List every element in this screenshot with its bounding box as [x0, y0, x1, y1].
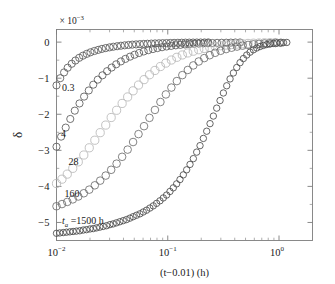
data-point	[224, 83, 230, 89]
figure-container: 10−210−11000−1−2−3−4−5× 10−3(t−0.01) (h)…	[0, 0, 335, 284]
data-point	[96, 129, 104, 137]
data-point	[85, 144, 93, 152]
data-point	[134, 81, 142, 89]
series-annotation-0.3: 0.3	[62, 82, 74, 93]
data-point	[204, 128, 210, 134]
data-point	[126, 53, 133, 60]
data-point	[168, 84, 176, 92]
data-point	[58, 175, 66, 183]
data-point	[94, 76, 101, 83]
data-point	[227, 76, 233, 82]
data-point	[177, 176, 183, 182]
plot-frame	[57, 30, 313, 241]
data-point	[118, 153, 126, 161]
data-point	[113, 160, 121, 168]
data-point	[107, 166, 115, 174]
data-point	[237, 59, 243, 65]
data-point	[71, 107, 78, 114]
data-point	[80, 151, 88, 159]
x-tick-label: 100	[270, 245, 285, 257]
data-point	[140, 122, 148, 130]
data-point	[140, 48, 147, 55]
x-tick-label: 10−2	[48, 245, 66, 257]
data-point	[129, 138, 137, 146]
data-point	[200, 44, 208, 52]
y-axis-label: δ	[10, 132, 25, 138]
data-point	[136, 49, 143, 56]
y-tick-label: −2	[38, 109, 49, 120]
series-160	[53, 39, 285, 210]
data-point	[157, 98, 165, 106]
data-point	[102, 121, 110, 129]
data-point	[60, 69, 67, 76]
data-point	[189, 62, 197, 70]
data-point	[189, 47, 197, 55]
series-annotation-28: 28	[68, 156, 78, 167]
x-tick-label: 10−1	[159, 245, 177, 257]
data-point	[124, 146, 132, 154]
chart-canvas: 10−210−11000−1−2−3−4−5× 10−3(t−0.01) (h)…	[0, 0, 335, 284]
data-point	[151, 66, 159, 74]
data-point	[162, 91, 170, 99]
data-point	[140, 76, 148, 84]
data-point	[217, 97, 223, 103]
data-point	[178, 51, 186, 59]
data-point	[64, 64, 71, 71]
data-point	[190, 155, 196, 161]
x-axis-label: (t−0.01) (h)	[160, 267, 210, 279]
data-point	[113, 106, 121, 114]
data-point	[220, 90, 226, 96]
data-point	[184, 49, 192, 57]
data-point	[107, 113, 115, 121]
data-point	[151, 106, 159, 114]
data-point	[80, 93, 87, 100]
data-point	[214, 105, 220, 111]
data-point	[131, 51, 138, 58]
data-point	[193, 149, 199, 155]
y-tick-label: −4	[38, 181, 50, 192]
series-annotation-160: 160	[64, 188, 79, 199]
y-tick-label: −3	[38, 145, 49, 156]
data-point	[76, 100, 83, 107]
data-point	[210, 113, 216, 119]
data-point	[104, 68, 111, 75]
data-point	[195, 58, 203, 66]
y-tick-label: −5	[38, 217, 49, 228]
data-point	[67, 115, 74, 122]
series-annotation-4: 4	[61, 128, 66, 139]
series-annotation-ta=1500h: ta =1500 h	[62, 215, 104, 228]
data-point	[173, 181, 179, 187]
data-point	[135, 130, 143, 138]
data-point	[173, 77, 181, 85]
y-tick-label: 0	[44, 37, 49, 48]
series-ta=1500h	[53, 39, 290, 236]
y-tick-label: −1	[38, 73, 49, 84]
data-point	[187, 161, 193, 167]
data-point	[99, 72, 106, 79]
data-point	[200, 135, 206, 141]
data-point	[197, 142, 203, 148]
data-point	[207, 120, 213, 126]
data-point	[91, 136, 99, 144]
y-axis-exponent-label: × 10−3	[60, 14, 85, 26]
data-point	[85, 186, 93, 194]
data-point	[80, 189, 88, 197]
data-point	[146, 114, 154, 122]
data-point	[145, 71, 153, 79]
